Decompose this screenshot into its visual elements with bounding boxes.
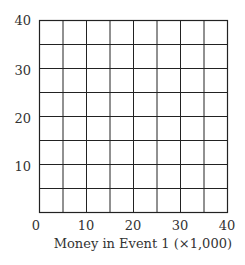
x-tick-label: 10: [78, 218, 95, 233]
y-tick-label: 10: [14, 159, 31, 174]
y-axis-ticks: 10 20 30 40: [14, 13, 31, 174]
y-tick-label: 40: [14, 13, 31, 28]
chart: 10 20 30 40 0 10 20 30 40 Money in Event…: [0, 0, 245, 265]
x-axis-label: Money in Event 1 (×1,000): [54, 236, 232, 251]
y-tick-label: 30: [14, 63, 31, 78]
x-tick-label: 0: [32, 218, 40, 233]
x-axis-ticks: 0 10 20 30 40: [32, 218, 235, 233]
x-tick-label: 40: [219, 218, 236, 233]
grid: [40, 21, 228, 213]
y-tick-label: 20: [14, 111, 31, 126]
x-tick-label: 30: [172, 218, 189, 233]
x-tick-label: 20: [125, 218, 142, 233]
